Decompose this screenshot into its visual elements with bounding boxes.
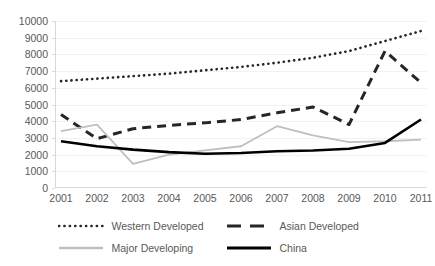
y-tick [52,188,55,189]
x-tick-label: 2004 [149,192,189,204]
line-chart: 0100020003000400050006000700080009000100… [0,0,435,266]
x-tick-label: 2005 [185,192,225,204]
series-line-western-developed [61,31,421,81]
x-tick-label: 2010 [365,192,405,204]
y-tick-label: 3000 [0,133,48,143]
series-line-asian-developed [61,51,421,139]
series-lines [55,21,427,188]
x-tick-label: 2006 [221,192,261,204]
legend-item-china: China [226,237,378,259]
x-tick-label: 2002 [77,192,117,204]
y-tick-label: 4000 [0,116,48,126]
y-tick-label: 10000 [0,16,48,26]
x-tick-label: 2003 [113,192,153,204]
y-tick-label: 8000 [0,49,48,59]
x-tick-label: 2007 [257,192,297,204]
x-tick-label: 2011 [401,192,435,204]
legend-swatch-dashed [226,220,272,232]
legend-swatch-solid-gray [58,242,104,254]
chart-legend: Western Developed Asian Developed Major … [0,215,435,263]
x-tick-label: 2001 [41,192,81,204]
legend-swatch-solid-black [226,242,272,254]
legend-swatch-dotted [58,220,104,232]
y-tick-label: 6000 [0,83,48,93]
y-tick-label: 9000 [0,33,48,43]
legend-label-china: China [280,242,307,254]
series-line-major-developing [61,125,421,164]
legend-item-asian-developed: Asian Developed [226,215,378,237]
legend-label-asian-developed: Asian Developed [280,220,359,232]
x-tick-label: 2008 [293,192,333,204]
legend-item-major-developing: Major Developing [58,237,226,259]
series-line-china [61,120,421,154]
y-tick-label: 7000 [0,66,48,76]
y-tick-label: 5000 [0,100,48,110]
legend-item-western-developed: Western Developed [58,215,226,237]
plot-area [55,21,427,188]
y-tick-label: 2000 [0,150,48,160]
legend-label-major-developing: Major Developing [112,242,194,254]
legend-label-western-developed: Western Developed [112,220,204,232]
y-tick-label: 1000 [0,166,48,176]
x-tick-label: 2009 [329,192,369,204]
